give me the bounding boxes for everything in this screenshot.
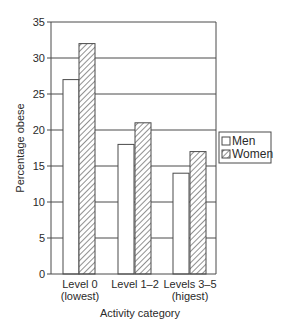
bar-women <box>135 123 151 274</box>
y-tick-label: 0 <box>39 268 45 280</box>
bar-men <box>173 173 189 274</box>
y-axis-title: Percentage obese <box>14 103 26 192</box>
x-category-label: Level 1–2 <box>111 278 159 290</box>
x-axis-title: Activity category <box>100 307 181 319</box>
y-tick-label: 5 <box>39 232 45 244</box>
y-tick-label: 10 <box>33 196 45 208</box>
y-tick-label: 15 <box>33 160 45 172</box>
x-category-labels: Level 0(lowest)Level 1–2Levels 3–5(higes… <box>61 278 217 302</box>
legend-label-women: Women <box>232 147 273 161</box>
x-category-sublabel: (higest) <box>172 290 209 302</box>
bars <box>63 44 206 274</box>
y-tick-label: 35 <box>33 16 45 28</box>
legend-swatch-men <box>222 137 230 145</box>
bar-women <box>190 152 206 274</box>
y-tick-label: 25 <box>33 88 45 100</box>
legend-swatch-women <box>222 150 230 158</box>
bar-women <box>79 44 95 274</box>
legend-label-men: Men <box>232 134 255 148</box>
bar-chart: 05101520253035 Level 0(lowest)Level 1–2L… <box>0 0 285 327</box>
y-tick-label: 20 <box>33 124 45 136</box>
x-category-label: Levels 3–5 <box>163 278 216 290</box>
bar-men <box>118 144 134 274</box>
legend: Men Women <box>219 132 273 163</box>
x-category-sublabel: (lowest) <box>61 290 100 302</box>
bar-men <box>63 80 79 274</box>
x-category-label: Level 0 <box>62 278 97 290</box>
y-tick-label: 30 <box>33 52 45 64</box>
y-tick-labels: 05101520253035 <box>33 16 45 280</box>
